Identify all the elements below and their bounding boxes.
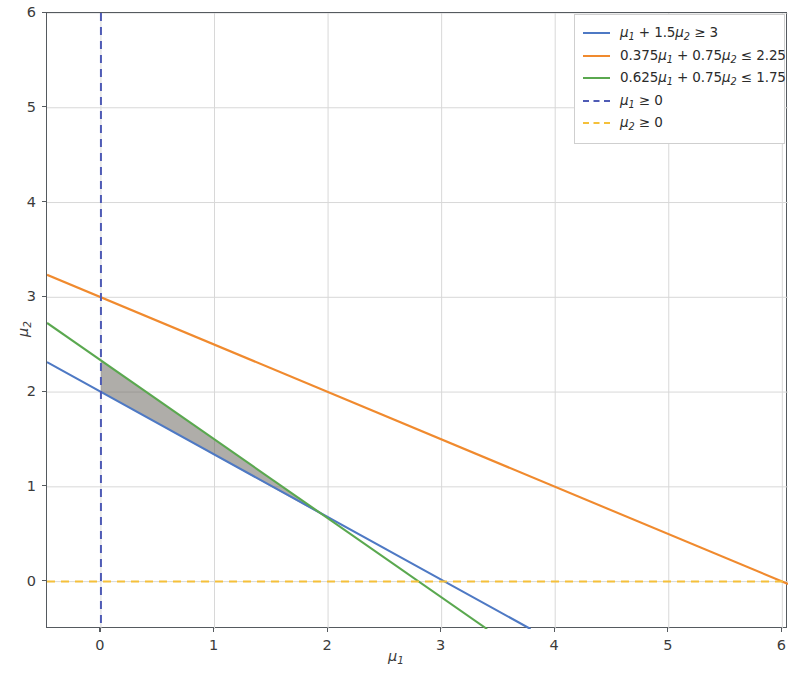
x-tick-mark — [327, 628, 328, 632]
legend-item[interactable]: μ1 ≥ 0 — [583, 90, 776, 113]
legend-label: 0.625μ1 + 0.75μ2 ≤ 1.75 — [620, 69, 786, 87]
legend-line-swatch — [583, 94, 610, 108]
legend-label: μ2 ≥ 0 — [620, 114, 663, 132]
legend-line-swatch — [583, 116, 610, 130]
legend-item[interactable]: μ1 + 1.5μ2 ≥ 3 — [583, 22, 776, 45]
y-tick-mark — [42, 106, 46, 107]
legend-item[interactable]: 0.625μ1 + 0.75μ2 ≤ 1.75 — [583, 67, 776, 90]
legend-line-swatch — [583, 49, 610, 63]
y-tick-label: 1 — [8, 478, 36, 494]
y-tick-mark — [42, 201, 46, 202]
x-tick-mark — [554, 628, 555, 632]
legend-label: μ1 ≥ 0 — [620, 92, 663, 110]
y-tick-label: 0 — [8, 573, 36, 589]
y-tick-mark — [42, 12, 46, 13]
legend-line-swatch — [583, 26, 610, 40]
x-tick-mark — [781, 628, 782, 632]
x-tick-mark — [99, 628, 100, 632]
y-tick-label: 5 — [8, 99, 36, 115]
y-tick-mark — [42, 296, 46, 297]
x-axis-label: μ1 — [0, 648, 792, 666]
y-tick-label: 2 — [8, 383, 36, 399]
figure-canvas: 0123456 0123456 μ1 μ2 μ1 + 1.5μ2 ≥ 30.37… — [0, 0, 792, 675]
x-tick-mark — [667, 628, 668, 632]
y-tick-label: 4 — [8, 194, 36, 210]
legend-label: 0.375μ1 + 0.75μ2 ≤ 2.25 — [620, 47, 786, 65]
legend-item[interactable]: 0.375μ1 + 0.75μ2 ≤ 2.25 — [583, 45, 776, 68]
legend-item[interactable]: μ2 ≥ 0 — [583, 112, 776, 135]
y-tick-mark — [42, 580, 46, 581]
legend-label: μ1 + 1.5μ2 ≥ 3 — [620, 24, 718, 42]
legend-line-swatch — [583, 71, 610, 85]
x-tick-mark — [440, 628, 441, 632]
y-axis-label: μ2 — [15, 299, 33, 359]
legend[interactable]: μ1 + 1.5μ2 ≥ 30.375μ1 + 0.75μ2 ≤ 2.250.6… — [574, 14, 785, 144]
y-tick-mark — [42, 391, 46, 392]
y-tick-mark — [42, 485, 46, 486]
y-tick-label: 6 — [8, 4, 36, 20]
x-tick-mark — [213, 628, 214, 632]
